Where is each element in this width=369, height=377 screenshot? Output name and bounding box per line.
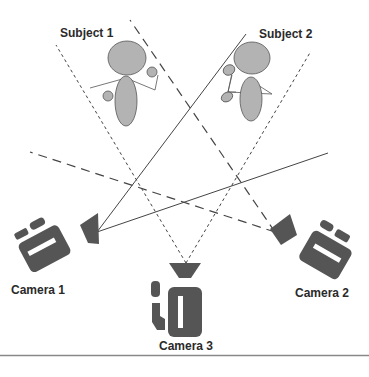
subject-2-label: Subject 2 — [259, 27, 312, 41]
camera-2-label: Camera 2 — [295, 286, 349, 300]
camera-1-icon — [11, 212, 99, 274]
camera-3-label: Camera 3 — [159, 339, 213, 353]
camera-diagram — [0, 0, 369, 377]
subject-2-figure — [220, 42, 272, 121]
camera-3-icon — [151, 263, 202, 337]
subject-1-figure — [90, 41, 158, 126]
camera-2-icon — [270, 214, 360, 281]
camera-1-label: Camera 1 — [11, 283, 65, 297]
subject-1-label: Subject 1 — [60, 26, 113, 40]
